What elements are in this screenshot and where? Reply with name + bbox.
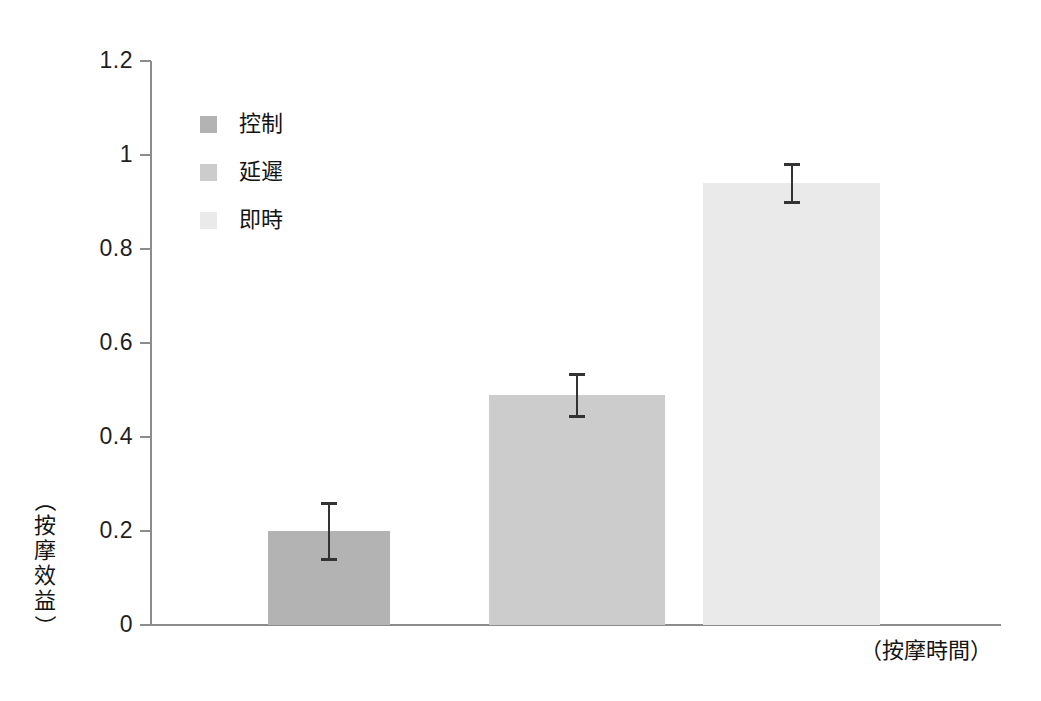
legend-item-即時[interactable]: 即時 (200, 196, 283, 244)
legend-swatch-icon (200, 164, 217, 181)
y-tick-mark (140, 436, 151, 438)
y-tick-mark (140, 248, 151, 250)
x-axis-title: （按摩時間） (860, 638, 992, 664)
y-tick-label: 0.4 (73, 425, 133, 448)
y-axis-title-char: 摩 (30, 538, 60, 563)
y-tick-label: 1.2 (73, 49, 133, 72)
y-tick-mark (140, 530, 151, 532)
y-tick-mark (140, 60, 151, 62)
error-bar-cap-lower-即時 (784, 201, 800, 204)
legend-swatch-icon (200, 116, 217, 133)
y-tick-label: 1 (73, 143, 133, 166)
y-axis-title: （按摩效益） (30, 488, 60, 638)
y-axis-title-char: 效 (30, 563, 60, 588)
error-bar-cap-upper-即時 (784, 163, 800, 166)
y-tick-label: 0.2 (73, 519, 133, 542)
y-tick-label: 0.6 (73, 331, 133, 354)
bar-即時 (703, 183, 880, 625)
error-bar-cap-lower-延遲 (569, 415, 585, 418)
y-tick-mark (140, 624, 151, 626)
y-axis-title-char: ） (30, 613, 60, 638)
error-bar-cap-upper-控制 (321, 502, 337, 505)
legend-item-label: 即時 (239, 209, 283, 231)
bar-chart-figure: 00.20.40.60.811.2 控制延遲即時 （按摩效益） （按摩時間） (0, 0, 1041, 701)
error-bar-stem-延遲 (576, 374, 578, 416)
legend-item-控制[interactable]: 控制 (200, 100, 283, 148)
y-axis-title-char: 益 (30, 588, 60, 613)
y-tick-label: 0.8 (73, 237, 133, 260)
y-tick-label: 0 (73, 613, 133, 636)
legend-item-延遲[interactable]: 延遲 (200, 148, 283, 196)
bar-延遲 (489, 395, 665, 625)
error-bar-cap-upper-延遲 (569, 373, 585, 376)
y-axis-title-char: 按 (30, 513, 60, 538)
error-bar-stem-控制 (328, 503, 330, 559)
y-axis-title-char: （ (30, 488, 60, 513)
legend-swatch-icon (200, 212, 217, 229)
y-tick-mark (140, 342, 151, 344)
y-tick-mark (140, 154, 151, 156)
legend: 控制延遲即時 (200, 100, 283, 244)
error-bar-stem-即時 (791, 164, 793, 202)
legend-item-label: 延遲 (239, 161, 283, 183)
legend-item-label: 控制 (239, 113, 283, 135)
error-bar-cap-lower-控制 (321, 558, 337, 561)
